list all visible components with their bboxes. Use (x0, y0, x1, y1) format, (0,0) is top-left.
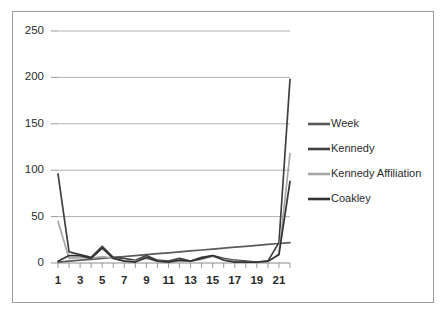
x-axis-tick-label: 11 (158, 274, 178, 286)
data-series-group (58, 79, 290, 262)
y-axis-tick-label: 50 (10, 210, 44, 222)
gridlines (51, 31, 290, 263)
legend-swatch-group (308, 124, 330, 199)
series-line-coakley (58, 181, 290, 262)
line-chart (0, 0, 447, 317)
x-axis-tick-label: 21 (269, 274, 289, 286)
x-axis-tick-label: 5 (92, 274, 112, 286)
legend-item-label: Coakley (331, 192, 371, 204)
x-axis-tick-label: 19 (247, 274, 267, 286)
y-axis-tick-label: 0 (10, 256, 44, 268)
x-axis-tick-label: 9 (136, 274, 156, 286)
x-axis-tick-label: 1 (48, 274, 68, 286)
legend-item-label: Kennedy Affiliation (331, 167, 421, 179)
x-axis-tick-label: 17 (225, 274, 245, 286)
y-axis-tick-label: 250 (10, 24, 44, 36)
legend-item-label: Kennedy (331, 142, 374, 154)
x-axis-tick-label: 7 (114, 274, 134, 286)
x-axis-tick-label: 15 (203, 274, 223, 286)
x-axis-ticks (58, 263, 290, 268)
y-axis-tick-label: 150 (10, 117, 44, 129)
legend-item-label: Week (331, 117, 359, 129)
y-axis-tick-label: 200 (10, 70, 44, 82)
x-axis-tick-label: 13 (181, 274, 201, 286)
y-axis-tick-label: 100 (10, 163, 44, 175)
series-line-kennedy (58, 79, 290, 262)
x-axis-tick-label: 3 (70, 274, 90, 286)
